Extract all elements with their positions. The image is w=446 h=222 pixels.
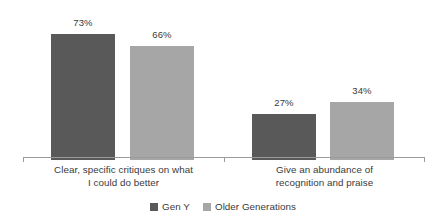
x-axis-tick-divider xyxy=(224,157,225,162)
bar-value-older-generations-recognition: 34% xyxy=(330,85,394,96)
legend-label-older-generations: Older Generations xyxy=(215,201,296,212)
chart-legend: Gen Y Older Generations xyxy=(0,201,446,212)
category-label-recognition-line2: recognition and praise xyxy=(276,177,374,188)
category-label-critiques-line2: I could do better xyxy=(88,177,159,188)
bar-gen-y-critiques xyxy=(51,34,115,160)
bar-value-gen-y-recognition: 27% xyxy=(252,97,316,108)
bar-older-generations-recognition xyxy=(330,102,394,160)
bar-older-generations-critiques xyxy=(130,46,194,160)
x-axis-tick-end xyxy=(424,157,425,162)
legend-label-gen-y: Gen Y xyxy=(162,201,190,212)
legend-item-older-generations: Older Generations xyxy=(203,201,296,212)
category-label-critiques: Clear, specific critiques on what I coul… xyxy=(23,164,224,189)
category-label-recognition-line1: Give an abundance of xyxy=(276,164,373,175)
legend-swatch-icon-older-generations xyxy=(203,203,211,211)
legend-swatch-icon-gen-y xyxy=(150,203,158,211)
x-axis-tick-start xyxy=(23,157,24,162)
legend-item-gen-y: Gen Y xyxy=(150,201,190,212)
bar-value-gen-y-critiques: 73% xyxy=(51,17,115,28)
bar-chart: 73% 66% 27% 34% Clear, specific critique… xyxy=(0,0,446,222)
category-label-critiques-line1: Clear, specific critiques on what xyxy=(54,164,193,175)
bar-value-older-generations-critiques: 66% xyxy=(130,29,194,40)
plot-area: 73% 66% 27% 34% xyxy=(0,0,446,160)
bar-gen-y-recognition xyxy=(252,114,316,160)
category-label-recognition: Give an abundance of recognition and pra… xyxy=(224,164,425,189)
